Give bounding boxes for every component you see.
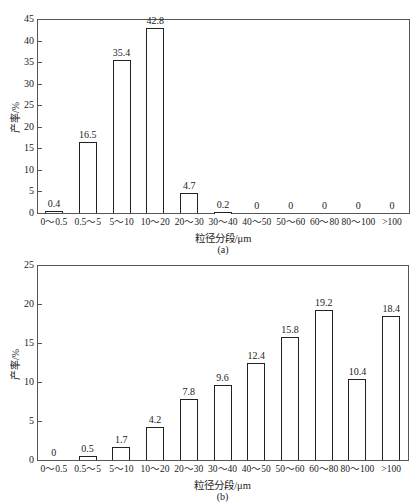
y-tick-label: 25	[12, 260, 34, 270]
x-tick-label: >100	[371, 464, 411, 474]
y-tick-mark	[38, 148, 42, 149]
bar	[112, 447, 130, 460]
bar	[214, 212, 232, 214]
y-tick-mark	[38, 170, 42, 171]
y-tick-mark	[38, 382, 42, 383]
bar-value-label: 0	[240, 201, 274, 211]
bar-value-label: 18.4	[374, 304, 408, 314]
y-tick-mark	[38, 127, 42, 128]
y-tick-label: 15	[12, 338, 34, 348]
bar-value-label: 0.2	[206, 200, 240, 210]
bar	[180, 399, 198, 460]
bar	[214, 385, 232, 460]
bar-value-label: 0	[307, 201, 341, 211]
bar	[146, 28, 164, 213]
y-tick-mark	[38, 105, 42, 106]
bar-value-label: 0	[375, 201, 409, 211]
bar-value-label: 0.4	[37, 199, 71, 209]
bar-value-label: 4.7	[172, 181, 206, 191]
bar-value-label: 35.4	[105, 48, 139, 58]
y-tick-mark	[38, 460, 42, 461]
y-tick-label: 20	[12, 299, 34, 309]
y-tick-label: 15	[12, 143, 34, 153]
bar	[113, 60, 131, 213]
bar-value-label: 9.6	[206, 373, 240, 383]
bar-value-label: 12.4	[239, 351, 273, 361]
bar	[281, 337, 299, 460]
bar-value-label: 19.2	[307, 298, 341, 308]
bar-value-label: 7.8	[172, 387, 206, 397]
y-tick-mark	[38, 62, 42, 63]
y-tick-label: 5	[12, 186, 34, 196]
x-tick-label: >100	[372, 217, 412, 227]
y-tick-mark	[38, 343, 42, 344]
bar-value-label: 1.7	[104, 435, 138, 445]
bar-value-label: 0	[37, 448, 71, 458]
bar	[45, 211, 63, 213]
bar	[180, 193, 198, 213]
bar	[382, 316, 400, 460]
panel-caption: (a)	[203, 244, 243, 255]
bar-value-label: 4.2	[138, 415, 172, 425]
y-tick-label: 0	[12, 455, 34, 465]
y-tick-mark	[38, 265, 42, 266]
bar	[79, 142, 97, 213]
panel-caption: (b)	[203, 491, 243, 502]
bar	[348, 379, 366, 460]
bar-value-label: 10.4	[340, 367, 374, 377]
y-tick-mark	[38, 304, 42, 305]
bar-value-label: 42.8	[138, 16, 172, 26]
y-tick-label: 45	[12, 14, 34, 24]
y-tick-mark	[38, 19, 42, 20]
y-tick-label: 35	[12, 57, 34, 67]
bar	[247, 363, 265, 460]
y-tick-label: 10	[12, 165, 34, 175]
bar	[146, 427, 164, 460]
y-tick-mark	[38, 191, 42, 192]
y-tick-label: 0	[12, 208, 34, 218]
y-tick-mark	[38, 84, 42, 85]
bar	[315, 310, 333, 460]
bar-value-label: 15.8	[273, 325, 307, 335]
y-tick-label: 40	[12, 36, 34, 46]
bar-value-label: 0	[341, 201, 375, 211]
y-tick-label: 5	[12, 416, 34, 426]
bar-value-label: 0.5	[71, 444, 105, 454]
y-tick-mark	[38, 421, 42, 422]
x-axis-label: 粒径分段/μm	[123, 477, 323, 492]
bar-value-label: 0	[274, 201, 308, 211]
bar-value-label: 16.5	[71, 130, 105, 140]
y-tick-label: 20	[12, 122, 34, 132]
y-tick-label: 10	[12, 377, 34, 387]
x-axis-label: 粒径分段/μm	[123, 230, 323, 245]
y-tick-label: 30	[12, 79, 34, 89]
y-tick-label: 25	[12, 100, 34, 110]
y-tick-mark	[38, 213, 42, 214]
bar	[79, 456, 97, 460]
y-tick-mark	[38, 41, 42, 42]
